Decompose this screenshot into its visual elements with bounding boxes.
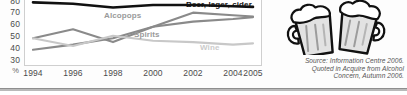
- x-tick-2005: 2005: [243, 68, 262, 78]
- line-chart: 80 70 60 50 40 30 % Beer, lager, cider A…: [0, 0, 272, 80]
- x-tick-1996: 1996: [63, 68, 82, 78]
- series-label-beer: Beer, lager, cider: [186, 0, 252, 9]
- x-tick-2004: 2004: [223, 68, 242, 78]
- x-tick-1998: 1998: [103, 68, 122, 78]
- y-tick-40: 40: [10, 44, 20, 53]
- series-label-alcopops: Alcopops: [104, 11, 141, 20]
- y-tick-80: 80: [10, 0, 20, 6]
- y-tick-60: 60: [10, 20, 20, 29]
- right-panel: Source: Information Centre 2006. Quoted …: [282, 0, 407, 88]
- x-tick-1994: 1994: [23, 68, 42, 78]
- y-tick-30: 30: [10, 56, 20, 65]
- x-tick-2002: 2002: [183, 68, 202, 78]
- source-line-3: Concern, Autumn 2006.: [282, 72, 404, 80]
- source-citation: Source: Information Centre 2006. Quoted …: [282, 57, 404, 80]
- series-label-spirits: Spirits: [134, 30, 160, 39]
- source-line-2: Quoted in Acquire from Alcohol: [282, 65, 404, 73]
- y-tick-70: 70: [10, 8, 20, 17]
- x-tick-2000: 2000: [143, 68, 162, 78]
- x-axis: 1994199619982000200220042005: [24, 68, 264, 80]
- figure-panel: 80 70 60 50 40 30 % Beer, lager, cider A…: [0, 0, 407, 95]
- beer-mugs-icon: [284, 0, 404, 55]
- series-label-wine: Wine: [200, 43, 219, 52]
- y-axis-unit-label: %: [12, 67, 19, 75]
- y-tick-50: 50: [10, 32, 20, 41]
- source-line-1: Source: Information Centre 2006.: [282, 57, 404, 65]
- bottom-strip: [0, 91, 407, 95]
- y-axis: 80 70 60 50 40 30 %: [0, 0, 22, 80]
